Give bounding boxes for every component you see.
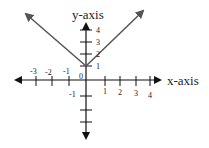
x-tick-label: -1: [63, 67, 70, 76]
origin-label: 0: [79, 72, 83, 81]
x-tick-label: -2: [45, 68, 52, 77]
x-axis: [16, 76, 160, 86]
graph-canvas: y-axis x-axis 0 -3 -2 -1 1 2 3 4 4 3 2 1…: [0, 0, 209, 148]
x-tick-label: 4: [148, 91, 152, 100]
y-axis: [80, 24, 92, 138]
y-tick-label: 4: [96, 26, 100, 35]
x-tick-label: 1: [103, 87, 107, 96]
x-tick-label: 2: [118, 88, 122, 97]
y-tick-label: 1: [96, 62, 100, 71]
y-tick-label: 2: [96, 50, 100, 59]
y-axis-label: y-axis: [72, 7, 104, 22]
x-tick-label: 3: [134, 89, 138, 98]
x-tick-label: -3: [30, 67, 37, 76]
x-axis-label: x-axis: [167, 73, 199, 88]
x-axis-ticks: [36, 76, 150, 86]
y-tick-label: -1: [69, 90, 76, 99]
y-tick-label: 3: [96, 38, 100, 47]
